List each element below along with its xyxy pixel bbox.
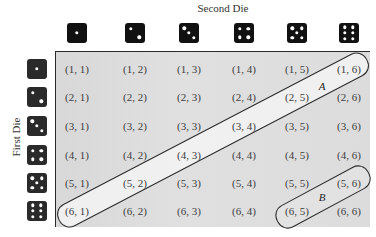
outcome-cell: (5, 6) xyxy=(337,177,361,189)
outcome-cell: (2, 6) xyxy=(337,91,361,103)
outcome-cell: (6, 2) xyxy=(123,205,147,217)
outcome-cell: (6, 4) xyxy=(232,205,256,217)
outcome-cell: (3, 5) xyxy=(285,120,309,132)
outcome-cell: (2, 5) xyxy=(285,91,309,103)
outcome-cell: (3, 2) xyxy=(123,120,147,132)
outcome-cell: (1, 4) xyxy=(232,63,256,75)
outcome-cell: (2, 1) xyxy=(65,91,89,103)
outcome-cell: (6, 3) xyxy=(177,205,201,217)
outcome-cell: (5, 4) xyxy=(232,177,256,189)
outcome-cell: (5, 2) xyxy=(123,177,147,189)
event-a-label: A xyxy=(319,80,326,92)
outcome-cell: (3, 6) xyxy=(337,120,361,132)
outcome-cell: (5, 3) xyxy=(177,177,201,189)
outcome-cell: (4, 3) xyxy=(177,149,201,161)
outcome-cell: (4, 2) xyxy=(123,149,147,161)
outcome-cell: (1, 6) xyxy=(337,63,361,75)
outcome-cell: (5, 5) xyxy=(285,177,309,189)
outcome-cell: (4, 4) xyxy=(232,149,256,161)
outcome-cell: (1, 3) xyxy=(177,63,201,75)
outcome-cell: (2, 4) xyxy=(232,91,256,103)
outcome-cell: (4, 1) xyxy=(65,149,89,161)
outcome-cell: (3, 4) xyxy=(232,120,256,132)
outcome-cell: (2, 3) xyxy=(177,91,201,103)
outcome-cell: (3, 3) xyxy=(177,120,201,132)
outcome-cell: (1, 5) xyxy=(285,63,309,75)
outcome-cell: (6, 1) xyxy=(65,205,89,217)
outcome-cell: (2, 2) xyxy=(123,91,147,103)
outcome-cell: (5, 1) xyxy=(65,177,89,189)
outcome-cell: (6, 5) xyxy=(285,205,309,217)
outcome-cell: (1, 1) xyxy=(65,63,89,75)
outcome-cell: (4, 6) xyxy=(337,149,361,161)
event-b-label: B xyxy=(319,191,326,203)
outcome-cell: (3, 1) xyxy=(65,120,89,132)
outcome-cell: (6, 6) xyxy=(337,205,361,217)
outcome-cell: (1, 2) xyxy=(123,63,147,75)
outcome-cell: (4, 5) xyxy=(285,149,309,161)
